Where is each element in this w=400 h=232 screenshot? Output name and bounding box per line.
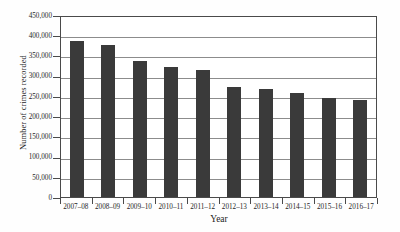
bar-cell	[93, 17, 125, 197]
y-tick-mark	[53, 198, 60, 199]
y-tick-label: 450,000	[8, 12, 52, 20]
y-axis-tick-labels: 050,000100,000150,000200,000250,000300,0…	[6, 0, 52, 232]
y-tick-label: 250,000	[8, 93, 52, 101]
y-tick-mark	[53, 158, 60, 159]
y-tick-label: 200,000	[8, 113, 52, 121]
bar	[70, 41, 84, 197]
bar-cell	[345, 17, 377, 197]
x-tick-label: 2011–12	[187, 203, 219, 211]
y-tick-mark	[53, 77, 60, 78]
x-tick-label: 2012–13	[219, 203, 251, 211]
y-tick-label: 300,000	[8, 72, 52, 80]
y-tick-mark	[53, 178, 60, 179]
x-tick-label: 2014–15	[282, 203, 314, 211]
y-tick-label: 0	[8, 194, 52, 202]
bar-series	[61, 17, 376, 197]
x-tick-label: 2013–14	[250, 203, 282, 211]
y-tick-label: 50,000	[8, 174, 52, 182]
plot-area	[60, 16, 377, 198]
bar	[101, 45, 115, 197]
y-tick-label: 400,000	[8, 32, 52, 40]
x-tick-label: 2009–10	[123, 203, 155, 211]
y-tick-mark	[53, 137, 60, 138]
bar	[290, 93, 304, 197]
bar	[322, 98, 336, 197]
y-tick-label: 350,000	[8, 52, 52, 60]
bar	[259, 89, 273, 197]
bar-chart-figure: Number of crimes recorded 050,000100,000…	[0, 0, 400, 232]
x-tick-label: 2016–17	[345, 203, 377, 211]
bar-cell	[156, 17, 188, 197]
bar-cell	[282, 17, 314, 197]
x-tick-label: 2010–11	[155, 203, 187, 211]
bar-cell	[187, 17, 219, 197]
bar-cell	[124, 17, 156, 197]
x-tick-label: 2008–09	[92, 203, 124, 211]
y-tick-label: 100,000	[8, 153, 52, 161]
bar-cell	[219, 17, 251, 197]
y-tick-mark	[53, 56, 60, 57]
x-axis-title: Year	[60, 214, 378, 224]
bar	[133, 61, 147, 197]
y-tick-mark	[53, 36, 60, 37]
x-axis-tick-labels: 2007–082008–092009–102010–112011–122012–…	[60, 203, 377, 211]
y-tick-mark	[53, 117, 60, 118]
y-tick-mark	[53, 16, 60, 17]
x-tick-label: 2015–16	[314, 203, 346, 211]
y-tick-mark	[53, 97, 60, 98]
y-tick-label: 150,000	[8, 133, 52, 141]
bar	[196, 70, 210, 197]
bar-cell	[313, 17, 345, 197]
x-tick-label: 2007–08	[60, 203, 92, 211]
bar	[227, 87, 241, 197]
x-tick-mark	[377, 198, 378, 204]
bar	[353, 100, 367, 197]
bar-cell	[250, 17, 282, 197]
bar	[164, 67, 178, 197]
bar-cell	[61, 17, 93, 197]
